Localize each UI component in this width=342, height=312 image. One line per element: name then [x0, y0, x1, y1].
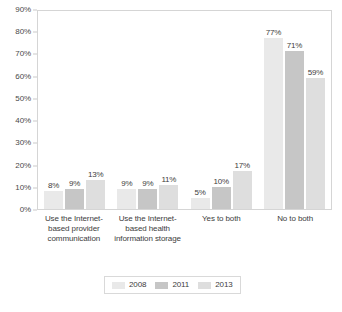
bar-slot: 10%: [212, 11, 231, 209]
bar[interactable]: [264, 38, 283, 209]
legend-color-swatch: [112, 282, 125, 289]
y-axis-tick-label: 80%: [15, 28, 31, 36]
bar-group: 77%71%59%: [258, 11, 331, 209]
bar-slot: 8%: [44, 11, 63, 209]
bar-slot: 9%: [117, 11, 136, 209]
bar[interactable]: [233, 171, 252, 209]
legend-item[interactable]: 2008: [112, 281, 146, 289]
x-axis-label: Use the Internet-based health informatio…: [111, 214, 185, 262]
bar[interactable]: [306, 78, 325, 209]
y-axis-tick-label: 90%: [15, 6, 31, 14]
bar-group: 5%10%17%: [185, 11, 258, 209]
bar-slot: 59%: [306, 11, 325, 209]
x-axis-category-labels: Use the Internet-based provider communic…: [37, 214, 332, 262]
bar-slot: 17%: [233, 11, 252, 209]
bar-value-label: 10%: [213, 177, 228, 186]
bar-slot: 71%: [285, 11, 304, 209]
bar-value-label: 77%: [266, 28, 281, 37]
bar-slot: 13%: [86, 11, 105, 209]
legend-item[interactable]: 2013: [198, 281, 232, 289]
bar[interactable]: [191, 198, 210, 209]
x-axis-label: Use the Internet-based provider communic…: [37, 214, 111, 262]
bar[interactable]: [212, 187, 231, 209]
plot-area: 8%9%13%9%9%11%5%10%17%77%71%59%: [37, 10, 332, 210]
bar-value-label: 5%: [195, 188, 206, 197]
bar-value-label: 59%: [308, 68, 323, 77]
legend-label: 2013: [215, 281, 232, 289]
y-axis-tick-label: 10%: [15, 184, 31, 192]
y-axis-tick-label: 30%: [15, 139, 31, 147]
bar-value-label: 17%: [234, 161, 249, 170]
bar[interactable]: [117, 189, 136, 209]
x-axis-label: No to both: [258, 214, 332, 262]
bar[interactable]: [285, 51, 304, 209]
bar-value-label: 13%: [88, 170, 103, 179]
y-axis-tick-label: 40%: [15, 117, 31, 125]
y-axis-tick-label: 70%: [15, 50, 31, 58]
y-axis: 90%80%70%60%50%40%30%20%10%0%: [0, 10, 37, 210]
y-axis-tick-label: 0%: [20, 206, 31, 214]
bar-slot: 9%: [65, 11, 84, 209]
bars-layer: 8%9%13%9%9%11%5%10%17%77%71%59%: [38, 11, 331, 209]
legend-label: 2008: [129, 281, 146, 289]
y-axis-tick-label: 20%: [15, 162, 31, 170]
x-axis-label: Yes to both: [185, 214, 259, 262]
bar-value-label: 9%: [142, 179, 153, 188]
bar[interactable]: [138, 189, 157, 209]
legend-color-swatch: [155, 282, 168, 289]
bar-group: 8%9%13%: [38, 11, 111, 209]
legend-item[interactable]: 2011: [155, 281, 189, 289]
legend-color-swatch: [198, 282, 211, 289]
bar-slot: 11%: [159, 11, 178, 209]
bar-value-label: 9%: [69, 179, 80, 188]
bar-value-label: 9%: [121, 179, 132, 188]
bar-slot: 77%: [264, 11, 283, 209]
bar[interactable]: [159, 185, 178, 209]
legend-label: 2011: [172, 281, 189, 289]
bar-slot: 5%: [191, 11, 210, 209]
bar-value-label: 11%: [161, 175, 176, 184]
bar-slot: 9%: [138, 11, 157, 209]
bar[interactable]: [44, 191, 63, 209]
grouped-bar-chart: 90%80%70%60%50%40%30%20%10%0% 8%9%13%9%9…: [0, 0, 342, 312]
bar-group: 9%9%11%: [111, 11, 184, 209]
bar[interactable]: [65, 189, 84, 209]
bar-value-label: 8%: [48, 181, 59, 190]
y-axis-tick-label: 60%: [15, 73, 31, 81]
bar-value-label: 71%: [287, 41, 302, 50]
chart-legend: 200820112013: [104, 276, 241, 294]
bar[interactable]: [86, 180, 105, 209]
y-axis-tick-label: 50%: [15, 95, 31, 103]
